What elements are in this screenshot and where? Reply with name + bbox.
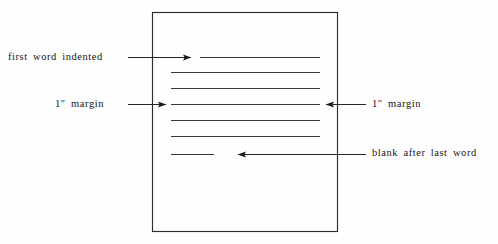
annotation-label-first-word-indented: first word indented <box>8 52 103 63</box>
annotation-label-margin-right: 1″ margin <box>372 99 421 110</box>
text-lines-group <box>171 58 320 155</box>
annotation-label-blank-after-last-word: blank after last word <box>372 148 477 159</box>
page-layout-diagram <box>0 0 498 244</box>
diagram-canvas: first word indented 1″ margin 1″ margin … <box>0 0 498 244</box>
annotation-label-margin-left: 1″ margin <box>55 99 104 110</box>
manuscript-page-outline <box>153 13 338 232</box>
